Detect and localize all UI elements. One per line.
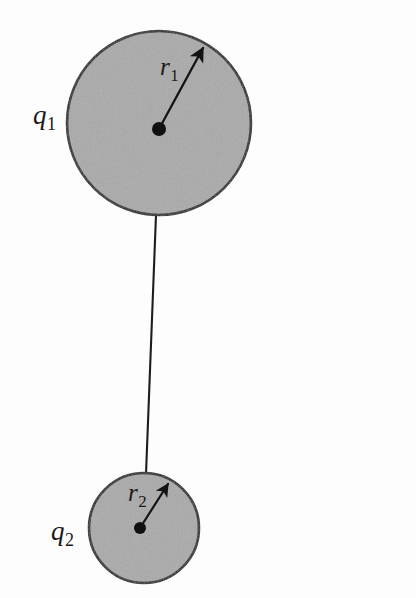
label-radius-1: r1 <box>160 54 179 84</box>
label-radius-2: r2 <box>128 480 147 510</box>
physics-figure: q1 r1 q2 r2 <box>0 0 416 598</box>
label-radius-2-base: r <box>128 479 138 506</box>
label-charge-1-subscript: 1 <box>47 114 56 134</box>
label-charge-1: q1 <box>33 102 56 133</box>
label-radius-1-base: r <box>160 53 170 80</box>
label-radius-1-subscript: 1 <box>170 66 179 85</box>
label-charge-2: q2 <box>51 518 74 549</box>
label-charge-2-base: q <box>51 516 65 546</box>
label-charge-2-subscript: 2 <box>65 530 74 550</box>
label-radius-2-subscript: 2 <box>138 492 147 511</box>
label-charge-1-base: q <box>33 100 47 130</box>
large-sphere-group <box>67 31 251 215</box>
figure-canvas <box>0 0 416 598</box>
